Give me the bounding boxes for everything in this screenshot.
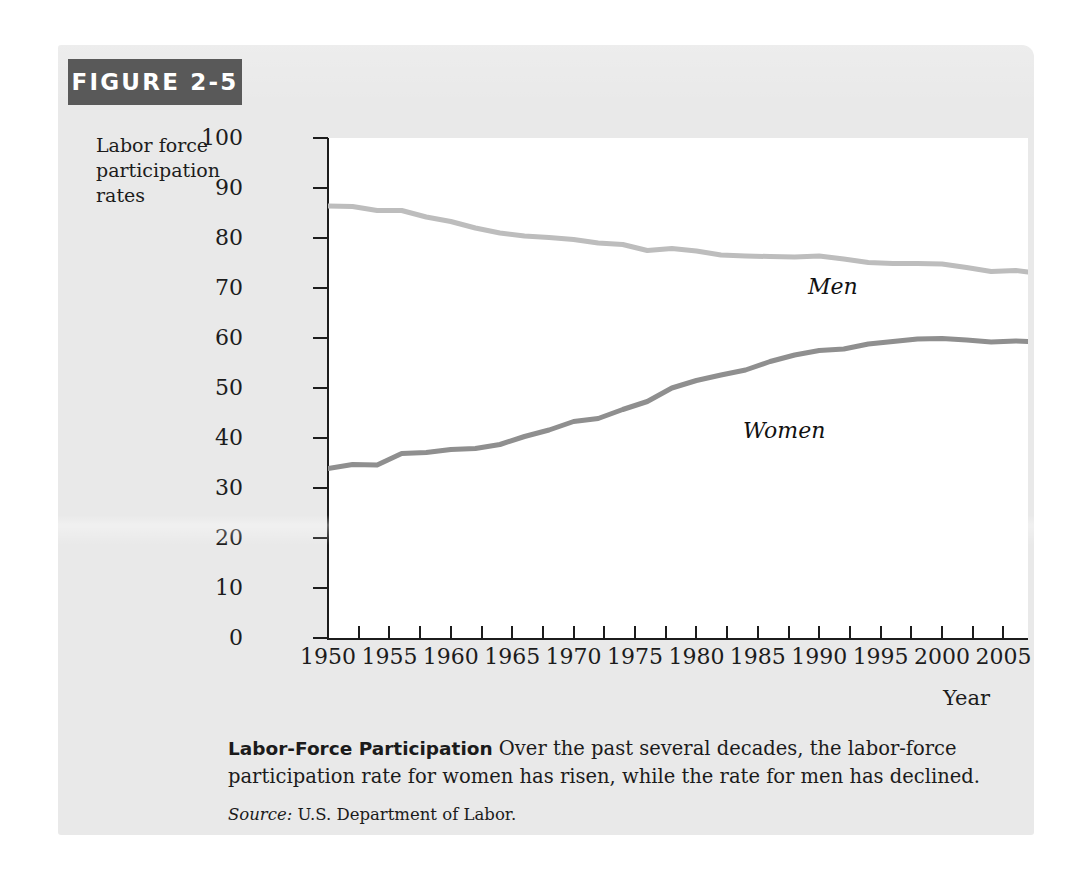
y-tick-label-50: 50: [183, 375, 243, 400]
caption-text: Labor-Force Participation Over the past …: [228, 735, 988, 791]
y-tick-label-20: 20: [183, 525, 243, 550]
y-axis-title: Labor force participation rates: [96, 133, 246, 208]
series-line-women: [328, 339, 1028, 469]
y-tick-label-60: 60: [183, 325, 243, 350]
caption-block: Labor-Force Participation Over the past …: [228, 735, 988, 824]
y-tick-label-80: 80: [183, 225, 243, 250]
y-tick-10: [313, 587, 328, 589]
series-plot: [328, 138, 1028, 638]
x-axis-title: Year: [943, 686, 990, 710]
y-tick-label-40: 40: [183, 425, 243, 450]
x-axis-line: [327, 638, 1028, 640]
y-tick-70: [313, 287, 328, 289]
y-tick-20: [313, 537, 328, 539]
y-tick-40: [313, 437, 328, 439]
series-label-women: Women: [743, 418, 825, 443]
y-tick-label-30: 30: [183, 475, 243, 500]
figure-card: FIGURE 2-5 Labor force participation rat…: [58, 45, 1034, 835]
plot-shell: 0102030405060708090100195019551960196519…: [253, 138, 1028, 693]
y-tick-50: [313, 387, 328, 389]
y-tick-80: [313, 237, 328, 239]
y-tick-label-70: 70: [183, 275, 243, 300]
y-tick-0: [313, 637, 328, 639]
source-line: Source: U.S. Department of Labor.: [228, 805, 988, 824]
x-tick-label-2005: 2005: [958, 644, 1048, 669]
y-tick-30: [313, 487, 328, 489]
figure-number-banner: FIGURE 2-5: [68, 59, 242, 105]
caption-lead: Labor-Force Participation: [228, 738, 493, 759]
y-tick-label-10: 10: [183, 575, 243, 600]
series-label-men: Men: [808, 274, 858, 299]
y-tick-90: [313, 187, 328, 189]
source-label: Source:: [228, 805, 292, 824]
y-tick-label-0: 0: [183, 625, 243, 650]
source-text: U.S. Department of Labor.: [298, 805, 517, 824]
series-line-men: [328, 206, 1028, 272]
y-tick-60: [313, 337, 328, 339]
y-tick-100: [313, 137, 328, 139]
